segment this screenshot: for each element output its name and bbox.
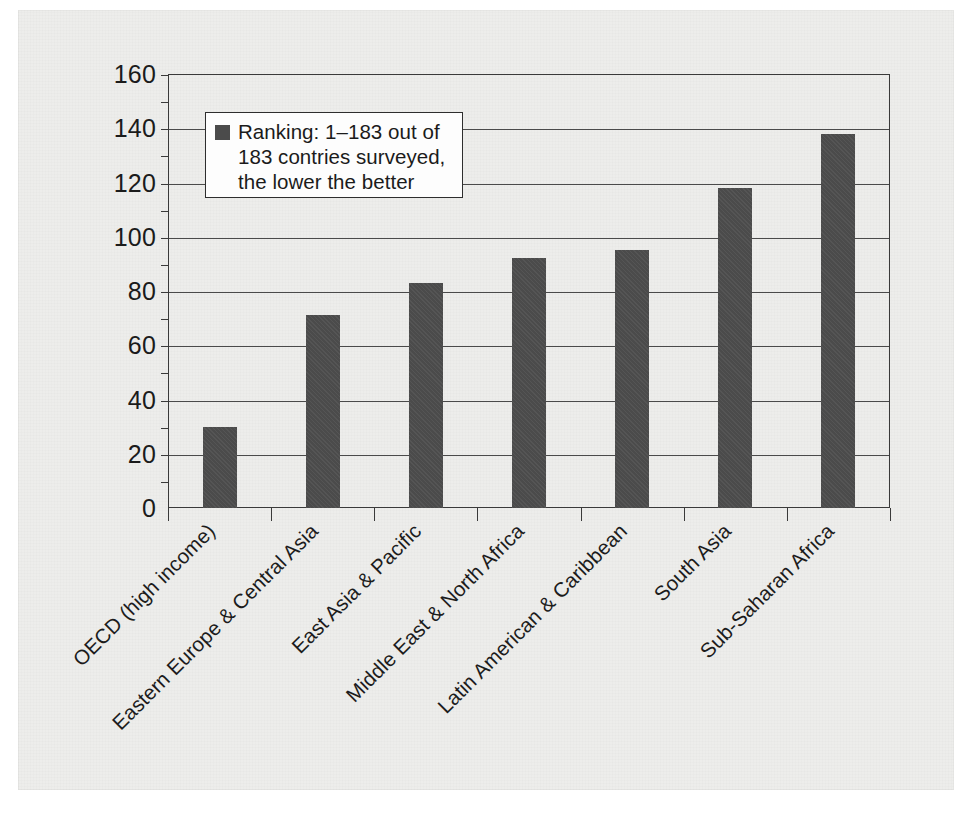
legend-swatch-icon bbox=[215, 125, 230, 140]
legend-text-line-2: 183 contries surveyed, bbox=[238, 144, 445, 169]
legend-text-line-3: the lower the better bbox=[238, 169, 445, 194]
legend-text-line-1: Ranking: 1–183 out of bbox=[238, 119, 445, 144]
legend-text: Ranking: 1–183 out of 183 contries surve… bbox=[238, 119, 445, 194]
bar-chart: 160 140 120 100 80 60 40 20 0 bbox=[0, 0, 972, 814]
chart-legend: Ranking: 1–183 out of 183 contries surve… bbox=[205, 112, 463, 198]
x-axis-labels: OECD (high income) Eastern Europe & Cent… bbox=[0, 0, 972, 814]
